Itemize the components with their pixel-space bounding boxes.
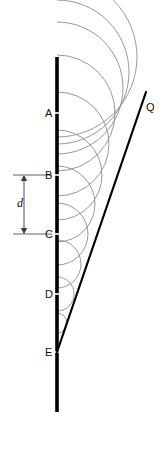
label-point-b: B [45, 170, 52, 181]
huygens-wavelet-figure: A B C D E Q d [0, 0, 164, 452]
wavelet-arc [57, 240, 81, 288]
label-point-c: C [45, 229, 53, 240]
wavelet-arc-group [57, 0, 137, 333]
label-separation-d: d [17, 197, 23, 209]
dimension-arrowhead-down [21, 228, 27, 234]
wavelet-arc [57, 0, 137, 137]
wavelet-arc [57, 166, 95, 242]
wavelet-arc [57, 0, 129, 144]
diagram-canvas [0, 0, 164, 452]
wavelet-arc [57, 22, 123, 154]
label-point-a: A [45, 108, 52, 119]
wavelet-arc [57, 203, 88, 265]
dimension-arrowhead-up [21, 175, 27, 181]
label-point-e: E [45, 347, 52, 358]
tangent-wavefront-line [57, 92, 146, 352]
label-wavefront-q: Q [146, 102, 155, 113]
label-point-d: D [45, 289, 53, 300]
